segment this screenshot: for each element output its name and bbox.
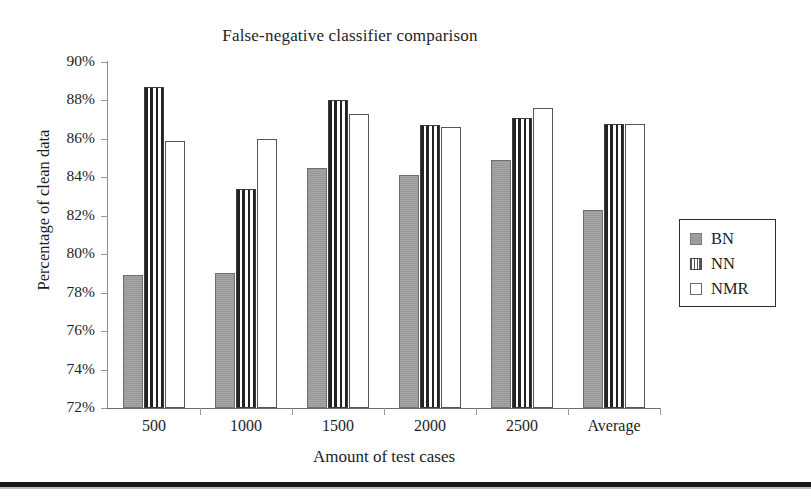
y-axis-tick-labels: 90%88%86%84%82%80%78%76%74%72% <box>49 0 95 498</box>
bar-nn-2500 <box>512 118 532 408</box>
bar-nmr-average <box>625 124 645 408</box>
bar-nmr-500 <box>165 141 185 408</box>
bar-bn-2500 <box>491 160 511 408</box>
legend-label: NMR <box>711 279 749 299</box>
legend-item-bn: BN <box>690 226 775 251</box>
x-axis-tick-mark <box>200 408 201 415</box>
bar-nn-500 <box>144 87 164 408</box>
bar-bn-1000 <box>215 273 235 408</box>
x-axis-tick-mark <box>384 408 385 415</box>
y-axis-tick-label: 90% <box>49 52 95 70</box>
page-edge-rule-shadow <box>0 487 811 489</box>
chart-figure: False-negative classifier comparison 90%… <box>0 0 811 498</box>
x-axis-tick-label: 2000 <box>384 417 476 435</box>
x-axis-tick-mark <box>568 408 569 415</box>
plot-area <box>108 62 660 408</box>
legend-swatch-nn-icon <box>690 258 702 270</box>
x-axis-tick-mark <box>292 408 293 415</box>
bar-nmr-2500 <box>533 108 553 408</box>
bar-nmr-1000 <box>257 139 277 408</box>
x-axis-tick-label: 1000 <box>200 417 292 435</box>
y-axis-tick-label: 88% <box>49 90 95 108</box>
x-axis-tick-label: 500 <box>108 417 200 435</box>
y-axis-tick-label: 78% <box>49 283 95 301</box>
bar-bn-500 <box>123 275 143 408</box>
bar-nn-1000 <box>236 189 256 408</box>
y-axis-tick-label: 86% <box>49 129 95 147</box>
y-axis-title: Percentage of clean data <box>34 50 54 370</box>
bar-nmr-1500 <box>349 114 369 408</box>
y-axis-tick-label: 72% <box>49 398 95 416</box>
x-axis-tick-label: 1500 <box>292 417 384 435</box>
legend-swatch-nmr-icon <box>690 283 702 295</box>
y-axis-tick-label: 74% <box>49 360 95 378</box>
bar-bn-average <box>583 210 603 408</box>
x-axis-tick-label: 2500 <box>476 417 568 435</box>
legend-label: NN <box>711 254 735 274</box>
legend-item-nmr: NMR <box>690 276 775 301</box>
x-axis-tick-mark <box>476 408 477 415</box>
bar-nn-average <box>604 124 624 408</box>
chart-title: False-negative classifier comparison <box>0 26 700 46</box>
y-axis-tick-label: 82% <box>49 206 95 224</box>
y-axis-tick-label: 80% <box>49 244 95 262</box>
x-axis-tick-mark <box>660 408 661 415</box>
bar-nn-2000 <box>420 125 440 408</box>
y-axis-tick-label: 76% <box>49 321 95 339</box>
y-axis-tick-label: 84% <box>49 167 95 185</box>
x-axis-tick-label: Average <box>568 417 660 435</box>
chart-legend: BNNNNMR <box>679 219 776 307</box>
legend-swatch-bn-icon <box>690 233 702 245</box>
bar-bn-1500 <box>307 168 327 408</box>
x-axis-title: Amount of test cases <box>108 447 660 467</box>
legend-label: BN <box>711 229 734 249</box>
bar-bn-2000 <box>399 175 419 408</box>
bar-nn-1500 <box>328 100 348 408</box>
legend-item-nn: NN <box>690 251 775 276</box>
bar-nmr-2000 <box>441 127 461 408</box>
